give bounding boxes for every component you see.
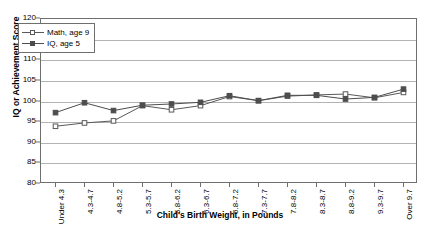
x-axis-tick-mark	[287, 183, 288, 187]
legend-label: IQ, age 5	[47, 39, 80, 48]
data-point-marker	[82, 100, 87, 105]
data-point-marker	[343, 97, 348, 102]
data-point-marker	[227, 93, 232, 98]
x-axis-tick-mark	[113, 183, 114, 187]
filled-square-marker-icon	[22, 38, 44, 49]
y-axis-tick-label: 120	[23, 14, 36, 22]
y-axis-tick-label: 110	[23, 55, 36, 63]
x-axis-tick-mark	[200, 183, 201, 187]
x-axis-tick-mark	[258, 183, 259, 187]
data-point-marker	[401, 87, 406, 92]
legend: Math, age 9IQ, age 5	[18, 23, 95, 53]
data-point-marker	[82, 121, 87, 126]
x-axis-tick-mark	[345, 183, 346, 187]
data-point-marker	[314, 93, 319, 98]
data-point-marker	[169, 102, 174, 107]
chart-container: 80859095100105110115120 IQ or Achievemen…	[0, 0, 440, 233]
y-axis-tick-label: 90	[27, 138, 36, 146]
data-point-marker	[111, 108, 116, 113]
series-layer	[41, 19, 418, 184]
data-point-marker	[140, 103, 145, 108]
y-axis-tick-label: 80	[27, 179, 36, 187]
legend-label: Math, age 9	[47, 28, 89, 37]
x-axis-title: Child's Birth Weight, in Pounds	[0, 210, 440, 220]
x-axis-tick-mark	[142, 183, 143, 187]
x-axis: Under 4.34.3-4.74.8-5.25.3-5.75.8-6.26.3…	[40, 183, 417, 233]
data-point-marker	[53, 110, 58, 115]
x-axis-tick-mark	[403, 183, 404, 187]
legend-item: IQ, age 5	[22, 38, 89, 49]
data-point-marker	[53, 124, 58, 129]
data-point-marker	[372, 95, 377, 100]
y-axis-tick-label: 100	[23, 97, 36, 105]
x-axis-tick-mark	[84, 183, 85, 187]
data-point-marker	[198, 100, 203, 105]
y-axis-tick-label: 95	[27, 117, 36, 125]
data-point-marker	[343, 92, 348, 97]
plot-area	[40, 18, 417, 183]
x-axis-tick-mark	[55, 183, 56, 187]
y-axis-tick-label: 85	[27, 158, 36, 166]
x-axis-tick-mark	[171, 183, 172, 187]
x-axis-tick-mark	[374, 183, 375, 187]
x-axis-tick-mark	[229, 183, 230, 187]
data-point-marker	[256, 98, 261, 103]
data-point-marker	[285, 93, 290, 98]
y-axis-tick-label: 105	[23, 76, 36, 84]
x-axis-tick-mark	[316, 183, 317, 187]
data-point-marker	[111, 119, 116, 124]
series-line	[56, 89, 404, 113]
data-point-marker	[169, 107, 174, 112]
open-square-marker-icon	[22, 27, 44, 38]
legend-item: Math, age 9	[22, 27, 89, 38]
